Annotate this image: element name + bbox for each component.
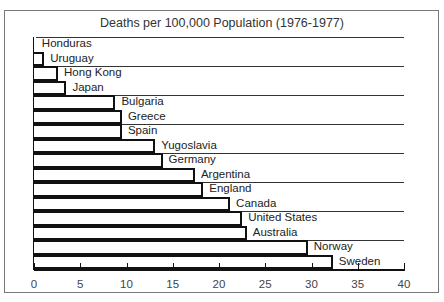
bar-label: Canada xyxy=(236,196,276,211)
bar xyxy=(34,255,333,270)
bar-row: Japan xyxy=(34,81,404,96)
x-tick-mark xyxy=(312,263,313,270)
bar-row: Honduras xyxy=(34,37,404,52)
bar-row: Germany xyxy=(34,153,404,168)
bar-row: England xyxy=(34,182,404,197)
bar-label: Germany xyxy=(169,152,216,167)
bar-label: Spain xyxy=(128,123,157,138)
bar-row: Greece xyxy=(34,110,404,125)
x-tick-mark xyxy=(404,263,405,270)
bar-label: Honduras xyxy=(42,36,92,51)
bar xyxy=(34,95,115,110)
bar-row: Yugoslavia xyxy=(34,139,404,154)
bar-row: Australia xyxy=(34,226,404,241)
bar-label: Bulgaria xyxy=(121,94,163,109)
x-tick-mark xyxy=(173,263,174,270)
x-tick-label: 5 xyxy=(65,278,95,290)
bar xyxy=(34,153,163,168)
bar-label: Norway xyxy=(314,239,353,254)
bar xyxy=(34,168,195,183)
bar-row: Uruguay xyxy=(34,52,404,67)
x-tick-mark xyxy=(358,263,359,270)
bar-label: United States xyxy=(248,210,317,225)
bar xyxy=(34,197,230,212)
bar xyxy=(34,110,122,125)
bar-row: Hong Kong xyxy=(34,66,404,81)
x-tick-mark xyxy=(265,263,266,270)
x-tick-label: 30 xyxy=(297,278,327,290)
x-tick-mark xyxy=(34,263,35,270)
x-tick-mark xyxy=(80,263,81,270)
bar-label: Yugoslavia xyxy=(161,138,217,153)
bar-label: Argentina xyxy=(201,167,250,182)
bar-label: Hong Kong xyxy=(64,65,122,80)
bar xyxy=(34,66,58,81)
bar xyxy=(34,182,203,197)
x-tick-label: 0 xyxy=(19,278,49,290)
x-tick-label: 25 xyxy=(250,278,280,290)
bar-label: Uruguay xyxy=(50,51,93,66)
bar-row: Argentina xyxy=(34,168,404,183)
bar-row: Canada xyxy=(34,197,404,212)
bar xyxy=(34,139,155,154)
bar xyxy=(34,226,247,241)
bar-label: England xyxy=(209,181,251,196)
x-tick-label: 10 xyxy=(112,278,142,290)
bar-row: Bulgaria xyxy=(34,95,404,110)
x-tick-label: 35 xyxy=(343,278,373,290)
bar xyxy=(34,81,66,96)
x-tick-mark xyxy=(219,263,220,270)
bar-row: United States xyxy=(34,211,404,226)
x-tick-mark xyxy=(127,263,128,270)
chart-title: Deaths per 100,000 Population (1976-1977… xyxy=(0,16,444,30)
bar-label: Australia xyxy=(253,225,298,240)
bar-label: Japan xyxy=(72,80,103,95)
bar xyxy=(34,124,122,139)
bar-label: Sweden xyxy=(339,254,381,269)
bar xyxy=(34,52,44,67)
bar xyxy=(34,240,308,255)
bar xyxy=(34,37,36,52)
bar-label: Greece xyxy=(128,109,166,124)
bar-row: Spain xyxy=(34,124,404,139)
x-tick-label: 40 xyxy=(389,278,419,290)
bar-row: Norway xyxy=(34,240,404,255)
x-tick-label: 20 xyxy=(204,278,234,290)
x-tick-label: 15 xyxy=(158,278,188,290)
plot-area: HondurasUruguayHong KongJapanBulgariaGre… xyxy=(34,37,404,269)
bar xyxy=(34,211,242,226)
